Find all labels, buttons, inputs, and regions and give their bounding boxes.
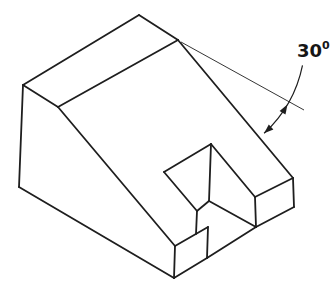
isometric-drawing (0, 0, 333, 290)
edge-L1-L2 (207, 227, 208, 258)
edge-E-D (174, 246, 175, 278)
edge-D-L2 (174, 258, 207, 278)
edge-R1-R2 (293, 178, 294, 207)
angle-dimension-arc (264, 65, 302, 133)
degree-symbol: 0 (322, 39, 330, 52)
edge-C-D (19, 187, 174, 278)
drawing-canvas: 300 (0, 0, 333, 290)
edge-B-A (23, 15, 139, 85)
edge-J1-R4 (209, 201, 256, 227)
edge-J2-J3 (196, 211, 197, 234)
edge-G-R1 (178, 40, 293, 178)
angle-value: 30 (297, 40, 322, 61)
edge-B-F (23, 85, 58, 107)
edge-R3-R1 (255, 178, 293, 197)
edge-F-G (58, 40, 178, 107)
edge-S2-R3 (211, 144, 255, 197)
edge-S1-S2 (164, 144, 211, 172)
edge-B-C (19, 85, 23, 187)
edge-S1-J2 (164, 172, 197, 211)
dimension-extension-line (181, 42, 304, 110)
dimension-arrowhead-1 (280, 105, 288, 115)
edge-J2-J1 (197, 201, 209, 211)
angle-label: 300 (297, 42, 330, 60)
edge-L2-R4 (207, 227, 256, 258)
edge-R4-R2 (256, 207, 294, 227)
edge-F-E (58, 107, 175, 246)
edge-E-L1 (175, 227, 208, 246)
edge-S2-J1 (209, 144, 211, 201)
edge-R3-R4 (255, 197, 256, 227)
edge-A-G (139, 15, 178, 40)
